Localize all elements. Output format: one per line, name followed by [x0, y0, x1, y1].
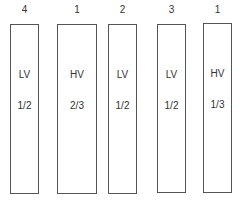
- column-type-label: LV: [11, 69, 38, 80]
- column-box: LV 1/2: [157, 24, 186, 193]
- column-type-label: LV: [158, 69, 185, 80]
- column-number: 4: [10, 4, 39, 15]
- column-box: LV 1/2: [108, 24, 137, 194]
- column-2: 1 HV 2/3: [57, 0, 97, 208]
- column-fraction: 1/3: [204, 99, 231, 110]
- column-number: 1: [203, 4, 232, 15]
- column-box: HV 1/3: [203, 23, 232, 193]
- column-fraction: 1/2: [11, 100, 38, 111]
- column-fraction: 1/2: [158, 100, 185, 111]
- column-3: 2 LV 1/2: [108, 0, 137, 208]
- column-fraction: 1/2: [109, 100, 136, 111]
- column-type-label: LV: [109, 69, 136, 80]
- column-1: 4 LV 1/2: [10, 0, 39, 208]
- column-number: 3: [157, 4, 186, 15]
- column-type-label: HV: [204, 68, 231, 79]
- column-box: HV 2/3: [57, 24, 97, 194]
- column-5: 1 HV 1/3: [203, 0, 232, 208]
- column-box: LV 1/2: [10, 24, 39, 194]
- column-number: 1: [57, 4, 97, 15]
- column-4: 3 LV 1/2: [157, 0, 186, 208]
- column-type-label: HV: [58, 69, 96, 80]
- column-number: 2: [108, 4, 137, 15]
- column-fraction: 2/3: [58, 100, 96, 111]
